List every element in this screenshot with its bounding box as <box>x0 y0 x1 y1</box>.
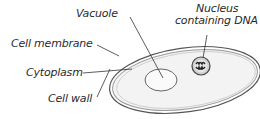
nucleus-label-line2: containing DNA <box>175 15 258 27</box>
cell-wall-shape <box>105 38 260 119</box>
cell-membrane-label: Cell membrane <box>11 38 93 50</box>
cell-membrane-pointer <box>97 45 119 56</box>
cell-wall-label: Cell wall <box>48 93 92 105</box>
nucleus-shape <box>192 57 210 75</box>
vacuole-shape <box>145 69 177 91</box>
cell-wall-pointer <box>97 69 110 97</box>
vacuole-label: Vacuole <box>76 8 118 20</box>
cytoplasm-label: Cytoplasm <box>26 67 83 79</box>
cell-diagram: Vacuole Nucleus containing DNA Cell memb… <box>0 0 260 119</box>
